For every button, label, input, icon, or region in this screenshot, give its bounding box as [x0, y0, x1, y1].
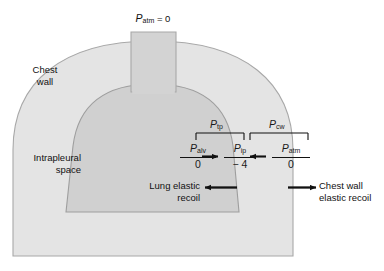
label-intrapleural-line1: Intrapleural	[5, 152, 81, 164]
pressure-atmospheric: Patm 0	[272, 143, 310, 170]
trachea-shape	[131, 32, 176, 92]
patm2-subscript: atm	[289, 147, 301, 154]
palv-value: 0	[180, 158, 216, 171]
ptp-subscript: tp	[217, 123, 223, 130]
label-chest-wall-pressure: Pcw	[269, 118, 285, 130]
pip-symbol: P	[234, 142, 241, 154]
label-intrapleural-line2: space	[5, 164, 81, 176]
pip-subscript: ip	[241, 147, 246, 154]
label-chest-recoil-line1: Chest wall	[319, 180, 384, 192]
label-lung-elastic-recoil: Lung elastic recoil	[120, 180, 200, 203]
palv-subscript: alv	[197, 147, 206, 154]
label-chest-wall-line2: wall	[14, 76, 76, 88]
patm-equals-zero: = 0	[154, 13, 170, 24]
pip-value: − 4	[224, 158, 256, 171]
pcw-symbol: P	[269, 118, 276, 130]
ptp-symbol: P	[210, 118, 217, 130]
label-lung-recoil-line1: Lung elastic	[120, 180, 200, 192]
label-chest-wall: Chest wall	[14, 64, 76, 87]
palv-label: Palv	[180, 143, 216, 156]
label-transpulmonary-pressure: Ptp	[210, 118, 223, 130]
trachea-lung-seam	[132, 84, 175, 94]
patm-symbol: P	[136, 12, 143, 24]
label-chest-wall-line1: Chest	[14, 64, 76, 76]
patm2-symbol: P	[282, 142, 289, 154]
patm-subscript: atm	[143, 17, 155, 24]
pressure-alveolar: Palv 0	[180, 143, 216, 170]
diagram-shapes	[0, 0, 384, 271]
patm2-label: Patm	[272, 143, 310, 156]
pcw-subscript: cw	[276, 123, 285, 130]
label-lung-recoil-line2: recoil	[120, 192, 200, 204]
pip-label: Pip	[224, 143, 256, 156]
pressure-intrapleural: Pip − 4	[224, 143, 256, 170]
label-atmospheric-pressure-top: Patm = 0	[113, 13, 193, 27]
palv-symbol: P	[190, 142, 197, 154]
label-intrapleural-space: Intrapleural space	[5, 152, 81, 175]
label-chest-recoil-line2: elastic recoil	[319, 192, 384, 204]
respiratory-pressure-diagram: Patm = 0 Chest wall Intrapleural space L…	[0, 0, 384, 271]
patm2-value: 0	[272, 158, 310, 171]
label-chest-wall-elastic-recoil: Chest wall elastic recoil	[319, 180, 384, 203]
